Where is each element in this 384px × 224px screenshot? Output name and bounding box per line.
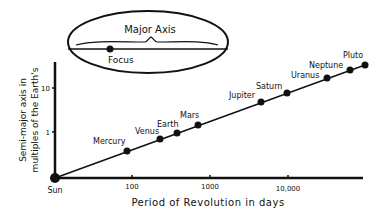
planet-label-mercury: Mercury xyxy=(93,137,126,146)
planet-label-neptune: Neptune xyxy=(309,61,343,70)
planet-label-earth: Earth xyxy=(157,120,178,129)
focus-dot xyxy=(107,46,114,53)
sun-label: Sun xyxy=(47,186,62,195)
planet-label-venus: Venus xyxy=(135,127,159,136)
planet-dot-uranus xyxy=(324,75,331,82)
planet-dot-jupiter xyxy=(258,99,265,106)
planet-dot-saturn xyxy=(284,90,291,97)
planet-label-jupiter: Jupiter xyxy=(228,91,256,100)
planet-label-mars: Mars xyxy=(180,111,199,120)
sun-dot xyxy=(50,173,60,183)
y-axis-title-line1: Semi-major axis in xyxy=(18,78,28,162)
planet-dot-venus xyxy=(157,136,164,143)
y-tick-label-1: 1 xyxy=(46,129,50,137)
planet-series: Sun Mercury Venus Earth Mars Jupiter Sat… xyxy=(47,51,368,195)
x-tick-label-1000: 1000 xyxy=(201,183,219,191)
major-axis-label: Major Axis xyxy=(124,24,176,35)
planet-dot-mars xyxy=(195,122,202,129)
y-tick-label-10: 10 xyxy=(41,85,50,93)
kepler-diagram: Major Axis Focus 10 1 100 1000 10,000 Pe… xyxy=(0,0,384,224)
focus-label: Focus xyxy=(108,55,134,65)
y-axis-title-line2: multiples of the Earth's xyxy=(30,67,40,172)
planet-label-saturn: Saturn xyxy=(256,82,282,91)
x-tick-label-100: 100 xyxy=(125,183,138,191)
planet-label-uranus: Uranus xyxy=(291,71,319,80)
x-axis-title: Period of Revolution in days xyxy=(131,197,284,208)
planet-dot-mercury xyxy=(124,148,131,155)
major-axis-brace xyxy=(76,37,218,45)
planet-dot-earth xyxy=(174,130,181,137)
trend-line xyxy=(55,65,365,178)
planet-dot-neptune xyxy=(347,67,354,74)
x-tick-label-10000: 10,000 xyxy=(276,185,301,193)
orbit-inset: Major Axis Focus xyxy=(68,11,228,73)
planet-label-pluto: Pluto xyxy=(343,51,363,60)
planet-dot-pluto xyxy=(362,62,369,69)
